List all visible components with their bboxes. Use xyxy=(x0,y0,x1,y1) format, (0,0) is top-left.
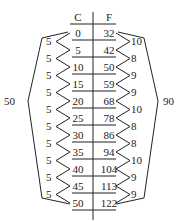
right-diff: 9 xyxy=(131,87,137,98)
right-diff: 8 xyxy=(131,138,137,149)
right-diff: 10 xyxy=(131,36,142,47)
right-diff: 9 xyxy=(131,70,137,81)
celsius-value: 50 xyxy=(63,198,93,209)
fahrenheit-value: 32 xyxy=(94,28,124,39)
left-diff: 5 xyxy=(46,121,52,132)
right-diff: 8 xyxy=(131,121,137,132)
right-diff: 9 xyxy=(131,189,137,200)
fahrenheit-value: 42 xyxy=(94,45,124,56)
header-f: F xyxy=(94,12,124,23)
right-diff: 10 xyxy=(131,155,142,166)
fahrenheit-value: 68 xyxy=(94,96,124,107)
celsius-value: 25 xyxy=(63,113,93,124)
right-diff: 10 xyxy=(131,104,142,115)
left-diff: 5 xyxy=(46,138,52,149)
left-total: 50 xyxy=(4,96,15,107)
left-diff: 5 xyxy=(46,155,52,166)
fahrenheit-value: 122 xyxy=(94,198,124,209)
left-diff: 5 xyxy=(46,189,52,200)
header-c: C xyxy=(63,12,93,23)
left-diff: 5 xyxy=(46,87,52,98)
fahrenheit-value: 50 xyxy=(94,62,124,73)
celsius-value: 20 xyxy=(63,96,93,107)
right-diff: 8 xyxy=(131,53,137,64)
fahrenheit-value: 104 xyxy=(94,164,124,175)
left-diff: 5 xyxy=(46,70,52,81)
fahrenheit-value: 78 xyxy=(94,113,124,124)
fahrenheit-value: 94 xyxy=(94,147,124,158)
celsius-value: 40 xyxy=(63,164,93,175)
celsius-value: 35 xyxy=(63,147,93,158)
left-diff: 5 xyxy=(46,104,52,115)
fahrenheit-value: 113 xyxy=(94,181,124,192)
right-diff: 9 xyxy=(131,172,137,183)
celsius-value: 10 xyxy=(63,62,93,73)
celsius-value: 5 xyxy=(63,45,93,56)
celsius-value: 45 xyxy=(63,181,93,192)
celsius-value: 15 xyxy=(63,79,93,90)
celsius-value: 0 xyxy=(63,28,93,39)
left-diff: 5 xyxy=(46,36,52,47)
fahrenheit-value: 86 xyxy=(94,130,124,141)
fahrenheit-value: 59 xyxy=(94,79,124,90)
left-diff: 5 xyxy=(46,53,52,64)
left-diff: 5 xyxy=(46,172,52,183)
celsius-value: 30 xyxy=(63,130,93,141)
right-total: 90 xyxy=(163,96,174,107)
